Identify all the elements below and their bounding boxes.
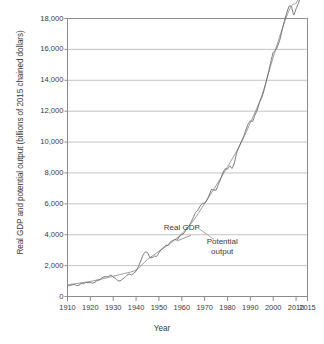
x-axis-label: Year (0, 324, 324, 333)
y-tick-label: 4,000 (20, 230, 64, 239)
y-tick-label: 16,000 (20, 44, 64, 53)
y-tick-label: 10,000 (20, 137, 64, 146)
y-tick-label: 8,000 (20, 168, 64, 177)
annotation-real-gdp: Real GDP (164, 223, 200, 233)
chart-figure: Real GDP and potential output (billions … (0, 0, 324, 344)
y-tick-label: 18,000 (20, 14, 64, 23)
annotation-potential-output-line1: Potential (207, 237, 238, 247)
y-tick-label: 14,000 (20, 75, 64, 84)
annotation-potential-output-line2: output (207, 247, 238, 257)
y-tick-label: 6,000 (20, 199, 64, 208)
y-tick-label: 0 (20, 292, 64, 301)
annotation-potential-output: Potential output (207, 237, 238, 257)
y-tick-label: 2,000 (20, 261, 64, 270)
series-line-real-gdp (68, 0, 308, 286)
x-tick-label: 2015 (293, 303, 323, 312)
y-tick-label: 12,000 (20, 106, 64, 115)
